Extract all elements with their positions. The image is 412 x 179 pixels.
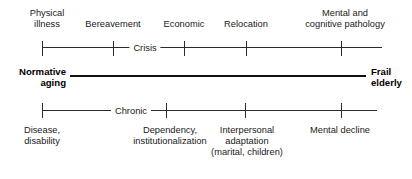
crisis-label-physical-illness: Physical illness xyxy=(30,8,65,30)
chronic-tick-mental-decline xyxy=(341,103,342,118)
chronic-label-dependency-institutionalization: Dependency, institutionalization xyxy=(133,125,206,147)
chronic-label-interpersonal-adaptation-line3: (marital, children) xyxy=(211,147,283,158)
crisis-label-bereavement-line1: Bereavement xyxy=(85,19,140,30)
crisis-label-relocation: Relocation xyxy=(224,19,268,30)
chronic-label-dependency-institutionalization-line2: institutionalization xyxy=(133,136,206,147)
spine-right-label: Frail elderly xyxy=(371,66,412,89)
chronic-axis-line xyxy=(42,110,377,111)
crisis-tick-relocation xyxy=(246,41,247,56)
spine-right-label-line1: Frail xyxy=(371,66,412,77)
spine-left-label-line1: Normative xyxy=(0,66,66,77)
crisis-axis-line xyxy=(42,47,382,48)
crisis-label-mental-cognitive-pathology-line1: Mental and xyxy=(305,8,385,19)
chronic-tick-disease-disability xyxy=(42,103,43,118)
chronic-tick-interpersonal-adaptation xyxy=(245,103,246,118)
crisis-label-physical-illness-line2: illness xyxy=(30,19,65,30)
crisis-tick-bereavement xyxy=(113,41,114,56)
crisis-tick-economic xyxy=(184,41,185,56)
spine-left-label: Normative aging xyxy=(0,66,66,89)
spine-left-label-line2: aging xyxy=(0,77,66,88)
chronic-label-dependency-institutionalization-line1: Dependency, xyxy=(133,125,206,136)
crisis-axis-name: Crisis xyxy=(129,43,160,54)
crisis-label-relocation-line1: Relocation xyxy=(224,19,268,30)
crisis-label-economic-line1: Economic xyxy=(164,19,205,30)
chronic-label-disease-disability: Disease, disability xyxy=(24,125,60,147)
chronic-label-interpersonal-adaptation-line2: adaptation xyxy=(211,136,283,147)
crisis-tick-mental-cognitive-pathology xyxy=(341,41,342,56)
crisis-tick-physical-illness xyxy=(42,41,43,56)
crisis-label-physical-illness-line1: Physical xyxy=(30,8,65,19)
chronic-label-interpersonal-adaptation: Interpersonal adaptation (marital, child… xyxy=(211,125,283,159)
chronic-axis-name: Chronic xyxy=(111,106,151,117)
chronic-label-mental-decline-line1: Mental decline xyxy=(310,125,370,136)
crisis-label-economic: Economic xyxy=(164,19,205,30)
chronic-label-disease-disability-line2: disability xyxy=(24,136,60,147)
crisis-label-mental-cognitive-pathology-line2: cognitive pathology xyxy=(305,19,385,30)
chronic-label-disease-disability-line1: Disease, xyxy=(24,125,60,136)
chronic-label-mental-decline: Mental decline xyxy=(310,125,370,136)
chronic-tick-dependency-institutionalization xyxy=(166,103,167,118)
crisis-label-bereavement: Bereavement xyxy=(85,19,140,30)
spine-right-label-line2: elderly xyxy=(371,77,412,88)
chronic-label-interpersonal-adaptation-line1: Interpersonal xyxy=(211,125,283,136)
crisis-label-mental-cognitive-pathology: Mental and cognitive pathology xyxy=(305,8,385,30)
spine-line xyxy=(70,75,366,77)
aging-continuum-diagram: Physical illness Bereavement Economic Re… xyxy=(0,0,412,179)
